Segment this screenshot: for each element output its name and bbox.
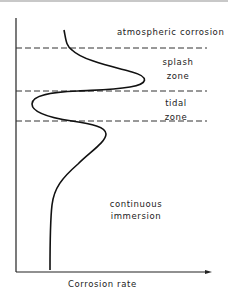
zone-label-splash-line1: splash (158, 57, 198, 68)
x-axis-arrow-icon (205, 270, 212, 274)
zone-label-splash: splash zone (158, 57, 198, 82)
corrosion-profile-diagram (0, 0, 228, 290)
zone-label-immersion-line1: continuous (101, 199, 171, 210)
zone-label-immersion-line2: immersion (101, 211, 171, 222)
zone-label-tidal-line2: zone (156, 112, 196, 123)
zone-label-tidal: tidal zone (156, 98, 196, 123)
zone-label-splash-line2: zone (158, 71, 198, 82)
corrosion-rate-curve (32, 30, 145, 270)
zone-label-immersion: continuous immersion (101, 199, 171, 222)
x-axis-label: Corrosion rate (68, 279, 137, 290)
zone-label-tidal-line1: tidal (156, 98, 196, 109)
zone-label-atmospheric: atmospheric corrosion (117, 27, 224, 38)
